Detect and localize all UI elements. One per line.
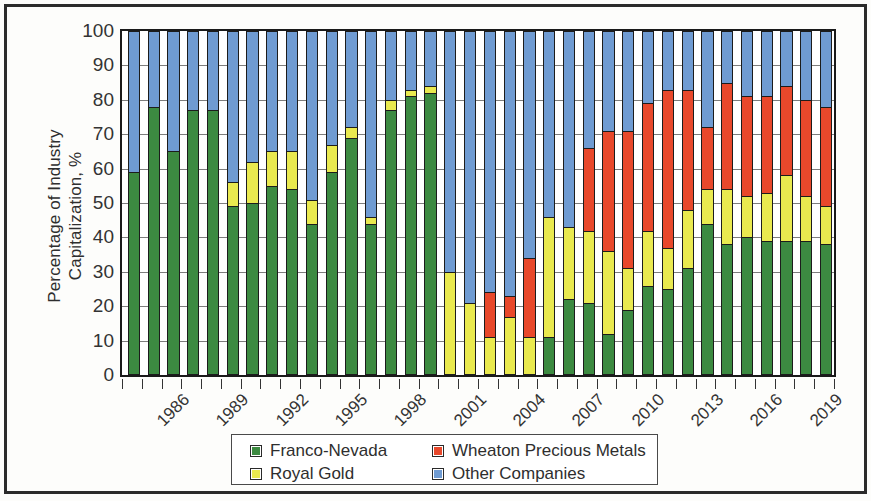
bar-segment-franco-nevada [682,268,694,375]
bar-segment-franco-nevada [800,241,812,375]
bar-segment-other-companies [701,31,713,127]
bar-segment-other-companies [583,31,595,148]
bar-segment-franco-nevada [721,244,733,375]
bar-segment-other-companies [464,31,476,303]
bar-segment-franco-nevada [602,334,614,375]
bar-segment-other-companies [741,31,753,96]
x-axis-tick [656,379,657,389]
legend-row: Royal Gold Other Companies [250,462,657,485]
x-axis-tick-labels: 1986198919921995199820012004200720102013… [120,390,836,438]
x-axis-tick [755,379,756,389]
x-axis-tick [775,379,776,389]
x-axis-tick-label: 2004 [509,390,550,431]
x-axis-tick [419,379,420,389]
bar-segment-other-companies [780,31,792,86]
bar-segment-other-companies [523,31,535,258]
bar-segment-royal-gold [761,193,773,241]
page-frame-bottom [4,491,867,494]
x-axis-tick [438,379,439,389]
x-axis-tick-label: 1995 [331,390,372,431]
bar-segment-other-companies [543,31,555,217]
bar-segment-wheaton-precious-metals [484,292,496,337]
bar-segment-other-companies [444,31,456,272]
bar-segment-other-companies [187,31,199,110]
x-axis-tick [340,379,341,389]
x-axis-tick [577,379,578,389]
bar-column [721,31,733,375]
bar-segment-royal-gold [721,189,733,244]
bar-segment-other-companies [405,31,417,89]
bar-segment-franco-nevada [128,172,140,375]
x-axis-tick-label: 2010 [628,390,669,431]
page-frame-right [864,4,867,494]
bar-segment-royal-gold [504,317,516,375]
x-axis-tick [122,379,123,389]
bar-segment-franco-nevada [286,189,298,375]
bar-column [464,31,476,375]
legend-item-wheaton-precious-metals: Wheaton Precious Metals [432,441,646,461]
bar-segment-franco-nevada [345,138,357,375]
x-axis-tick [280,379,281,389]
bar-segment-royal-gold [523,337,535,375]
bar-segment-other-companies [306,31,318,200]
bar-column [820,31,832,375]
x-axis-tick [478,379,479,389]
x-axis-tick [557,379,558,389]
bar-segment-franco-nevada [148,107,160,375]
bar-segment-other-companies [504,31,516,296]
bar-segment-wheaton-precious-metals [780,86,792,175]
bar-column [484,31,496,375]
bar-column [246,31,258,375]
bar-segment-royal-gold [306,200,318,224]
legend-row: Franco-Nevada Wheaton Precious Metals [250,439,657,462]
bar-column [444,31,456,375]
bar-segment-franco-nevada [227,206,239,375]
x-axis-tick [181,379,182,389]
bar-segment-franco-nevada [385,110,397,375]
y-axis-tick-label: 20 [70,295,114,317]
x-axis-tick [834,379,835,389]
x-axis-tick [537,379,538,389]
x-axis-tick [814,379,815,389]
legend: Franco-Nevada Wheaton Precious Metals Ro… [231,434,658,485]
bar-column [286,31,298,375]
bar-column [424,31,436,375]
bar-column [543,31,555,375]
x-axis-tick-label: 2016 [746,390,787,431]
y-axis-tick-label: 10 [70,330,114,352]
bar-segment-wheaton-precious-metals [602,131,614,251]
bar-segment-other-companies [721,31,733,83]
x-axis-tick [399,379,400,389]
bar-segment-franco-nevada [820,244,832,375]
bar-column [227,31,239,375]
bar-segment-other-companies [424,31,436,86]
bar-segment-other-companies [385,31,397,100]
bar-segment-franco-nevada [365,224,377,375]
x-axis-tick [300,379,301,389]
bar-segment-other-companies [622,31,634,131]
bar-column [761,31,773,375]
bar-segment-other-companies [563,31,575,227]
y-axis-tick-label: 70 [70,123,114,145]
x-axis-tick [260,379,261,389]
x-axis-tick [518,379,519,389]
bar-segment-wheaton-precious-metals [662,90,674,248]
y-axis-tick-label: 50 [70,192,114,214]
bar-segment-other-companies [167,31,179,151]
x-axis-tick [735,379,736,389]
bar-segment-other-companies [345,31,357,127]
bar-segment-royal-gold [563,227,575,299]
legend-swatch-icon [250,445,262,457]
bar-column [741,31,753,375]
bar-column [642,31,654,375]
x-axis-tick [359,379,360,389]
y-axis-tick-label: 80 [70,89,114,111]
x-axis-tick-label: 2001 [450,390,491,431]
x-axis-tick [142,379,143,389]
bar-segment-franco-nevada [266,186,278,375]
bar-segment-wheaton-precious-metals [682,90,694,210]
x-axis-tick [696,379,697,389]
bar-segment-franco-nevada [583,303,595,375]
bar-column [662,31,674,375]
bar-segment-wheaton-precious-metals [504,296,516,317]
